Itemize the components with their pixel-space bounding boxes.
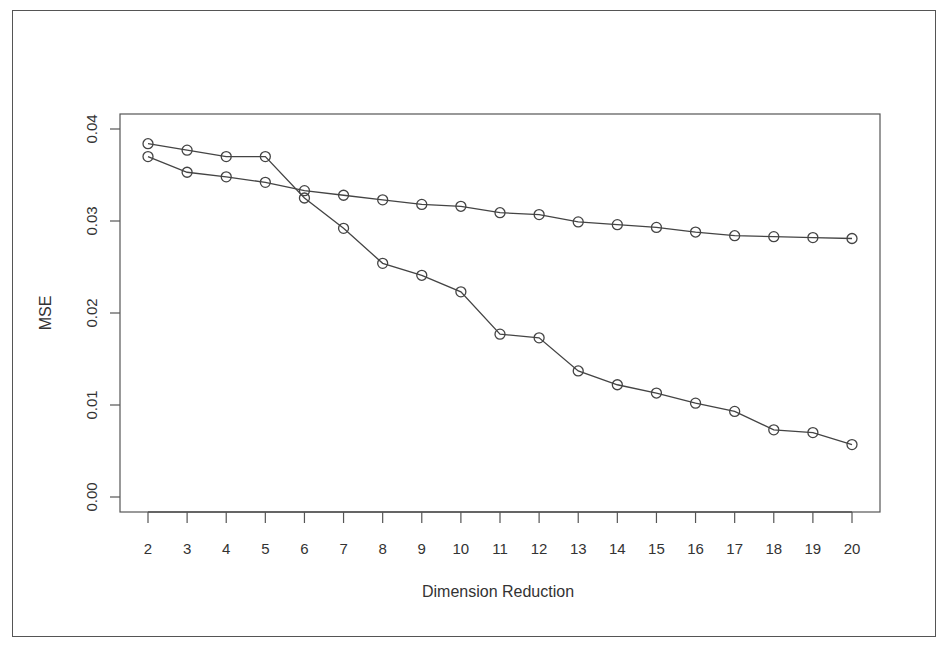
x-tick-label: 11 — [492, 540, 508, 557]
x-tick-label: 8 — [378, 540, 386, 557]
series-line — [148, 144, 852, 445]
x-axis-title: Dimension Reduction — [422, 583, 574, 600]
x-tick-label: 9 — [418, 540, 426, 557]
series-line — [148, 157, 852, 239]
x-tick-label: 3 — [183, 540, 191, 557]
x-tick-label: 6 — [300, 540, 308, 557]
x-tick-label: 17 — [726, 540, 743, 557]
x-axis: 234567891011121314151617181920 — [144, 512, 861, 557]
series-1 — [143, 139, 857, 450]
series-2 — [143, 152, 857, 244]
x-tick-label: 19 — [805, 540, 822, 557]
y-tick-label: 0.03 — [83, 206, 100, 235]
data-series — [143, 139, 857, 450]
x-tick-label: 18 — [765, 540, 782, 557]
x-tick-label: 16 — [687, 540, 704, 557]
line-chart: 0.000.010.020.030.04 2345678910111213141… — [0, 0, 950, 651]
x-tick-label: 20 — [844, 540, 861, 557]
x-tick-label: 12 — [531, 540, 548, 557]
plot-area — [120, 114, 880, 512]
x-tick-label: 2 — [144, 540, 152, 557]
y-tick-label: 0.02 — [83, 298, 100, 327]
x-tick-label: 14 — [609, 540, 626, 557]
x-tick-label: 4 — [222, 540, 230, 557]
x-tick-label: 15 — [648, 540, 665, 557]
y-tick-label: 0.04 — [83, 114, 100, 143]
x-tick-label: 5 — [261, 540, 269, 557]
y-tick-label: 0.01 — [83, 390, 100, 419]
y-tick-label: 0.00 — [83, 482, 100, 511]
x-tick-label: 10 — [453, 540, 470, 557]
y-axis: 0.000.010.020.030.04 — [83, 114, 120, 511]
x-tick-label: 7 — [339, 540, 347, 557]
x-tick-label: 13 — [570, 540, 587, 557]
y-axis-title: MSE — [37, 296, 54, 331]
